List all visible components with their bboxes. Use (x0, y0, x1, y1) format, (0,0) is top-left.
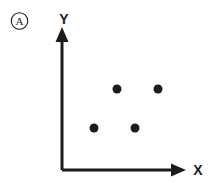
x-axis-arrowhead-icon (171, 164, 186, 177)
figure-panel: A Y X (0, 0, 212, 183)
scatter-plot-svg: A Y X (0, 0, 212, 183)
data-point-upper-right (154, 85, 163, 94)
panel-badge-label: A (16, 15, 24, 27)
x-axis-label: X (193, 162, 203, 178)
y-axis-label: Y (59, 11, 69, 27)
data-points-layer (90, 85, 163, 133)
data-point-upper-left (113, 85, 122, 94)
y-axis-arrowhead-icon (56, 27, 69, 42)
data-point-lower-right (131, 124, 140, 133)
data-point-lower-left (90, 124, 99, 133)
panel-badge-a: A (11, 13, 27, 29)
